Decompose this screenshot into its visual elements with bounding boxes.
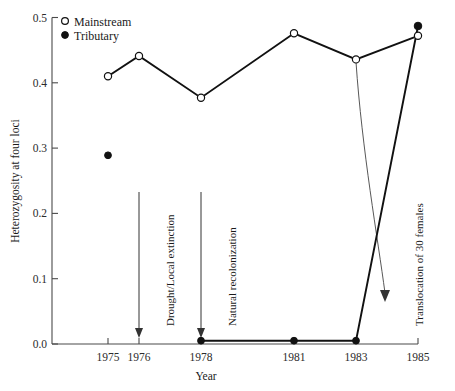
x-tick-label-1981: 1981 [283,351,306,363]
annotation-recolonization-arrowhead [197,328,205,338]
series-mainstream [104,30,421,102]
annotation-recolonization: Natural recolonization [197,192,238,338]
mainstream-line [108,33,418,97]
legend-label-tributary: Tributary [74,29,119,43]
legend-item-mainstream: Mainstream [62,15,132,29]
mainstream-point-1978 [197,94,204,101]
tributary-point-1983 [353,337,360,344]
annotation-translocation-curve [356,62,385,293]
mainstream-point-1985 [414,32,421,39]
mainstream-point-1976 [135,52,142,59]
x-tick-label-1975: 1975 [97,351,120,363]
legend-label-mainstream: Mainstream [74,15,132,29]
chart-legend: Mainstream Tributary [62,15,132,43]
annotation-recolonization-label: Natural recolonization [226,227,238,326]
annotation-translocation-arrowhead [380,290,390,302]
tributary-point-1978 [198,337,205,344]
heterozygosity-line-chart: 0.5 0.4 0.3 0.2 0.1 0.0 Heterozygosity a… [0,0,455,391]
legend-marker-filled-circle-icon [62,32,69,39]
y-tick-label-5: 0.0 [33,338,48,350]
legend-marker-open-circle-icon [62,18,69,25]
x-tick-label-1983: 1983 [345,351,368,363]
legend-item-tributary: Tributary [62,29,119,43]
y-tick-label-3: 0.2 [33,207,48,219]
tributary-point-1981 [291,337,298,344]
y-tick-label-4: 0.1 [33,273,48,285]
annotation-drought-label: Drought/Local extinction [164,214,176,326]
mainstream-point-1983 [352,56,359,63]
y-tick-label-2: 0.3 [33,142,48,154]
y-tick-label-1: 0.4 [33,77,48,89]
x-tick-label-1978: 1978 [190,351,213,363]
mainstream-point-1975 [104,73,111,80]
annotation-drought: Drought/Local extinction [135,192,176,338]
x-axis: 1975 1976 1978 1981 1983 1985 Year [52,338,430,382]
tributary-point-1985 [414,22,422,30]
series-tributary [105,22,422,344]
annotation-drought-arrowhead [135,328,143,338]
mainstream-point-1981 [290,30,297,37]
y-axis: 0.5 0.4 0.3 0.2 0.1 0.0 Heterozygosity a… [9,12,58,351]
chart-figure: 0.5 0.4 0.3 0.2 0.1 0.0 Heterozygosity a… [0,0,455,391]
tributary-point-1975 [105,152,112,159]
y-axis-title: Heterozygosity at four loci [9,119,22,243]
x-axis-title: Year [195,370,216,382]
y-tick-label-0: 0.5 [33,12,48,24]
annotation-translocation-label: Translocation of 30 females [413,203,425,326]
x-tick-label-1976: 1976 [128,351,151,363]
x-tick-label-1985: 1985 [407,351,430,363]
